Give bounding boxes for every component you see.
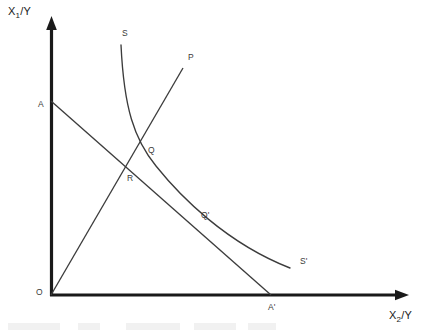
ray-OP — [51, 68, 183, 295]
curve-SS-prime — [121, 45, 290, 268]
point-label-O: O — [36, 288, 43, 297]
point-label-A-prime: A' — [268, 303, 276, 312]
point-label-Q: Q — [148, 146, 155, 155]
diagram-canvas — [0, 0, 430, 332]
point-label-R: R — [127, 174, 133, 183]
line-AA-prime — [51, 101, 271, 295]
point-label-S: S — [122, 29, 128, 38]
point-label-Q-prime: Q' — [201, 211, 210, 220]
y-axis-label: X1/Y — [8, 6, 31, 20]
x-axis-arrowhead — [395, 290, 409, 300]
y-axis — [46, 16, 57, 296]
x-axis-label: X2/Y — [389, 310, 412, 324]
economics-diagram: X1/Y X2/Y A S P Q R Q' S' A' O — [0, 0, 430, 332]
point-label-S-prime: S' — [300, 257, 308, 266]
x-axis — [50, 290, 409, 300]
point-label-A: A — [38, 100, 44, 109]
y-axis-arrowhead — [46, 16, 57, 30]
point-label-P: P — [188, 53, 194, 62]
